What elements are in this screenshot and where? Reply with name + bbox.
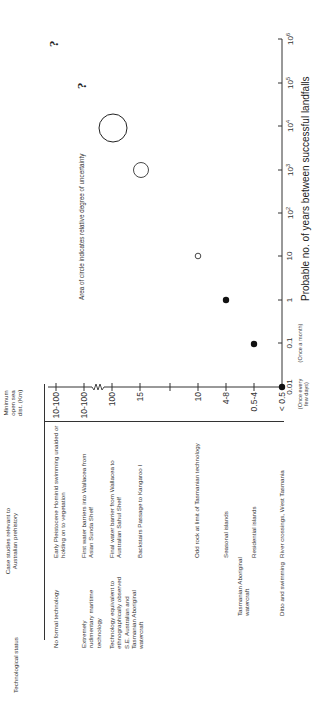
point-sahul-barrier — [99, 114, 127, 142]
x-tick-note-few-days: (Once every few days) — [297, 374, 309, 414]
x-tick-label: 105 — [285, 68, 295, 98]
x-tick-note-month: (Once a month) — [297, 323, 303, 363]
x-tick-label: 1 — [285, 285, 294, 315]
x-axis-label: Probable no. of years between successful… — [300, 76, 311, 301]
uncertainty-note: Area of circle indicates relative degree… — [78, 154, 85, 300]
point-residential-islands — [251, 341, 257, 347]
rotated-figure: Technological status Case studies releva… — [0, 0, 332, 711]
point-seasonal-islands — [223, 297, 229, 303]
x-tick-label: 0.01 — [285, 372, 294, 402]
x-tick-label: 104 — [285, 111, 295, 141]
point-odd-rock — [195, 253, 201, 259]
chart-plot — [0, 0, 332, 711]
x-tick-label: 10 — [285, 241, 294, 271]
question-mark-hominid: ? — [46, 41, 62, 48]
question-mark-wallacea: ? — [74, 83, 90, 90]
x-tick-label: 102 — [285, 198, 295, 228]
point-backstairs-passage — [134, 163, 149, 178]
x-tick-label: 106 — [285, 24, 295, 54]
x-tick-label: 103 — [285, 155, 295, 185]
x-tick-label: 0.1 — [285, 328, 294, 358]
years-ticks — [278, 39, 282, 343]
axis-break-zigzag-icon — [92, 384, 104, 390]
